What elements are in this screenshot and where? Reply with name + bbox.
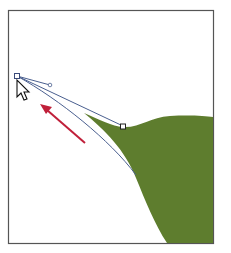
direction-handle-point[interactable]	[48, 83, 52, 87]
curve-anchor-point[interactable]	[121, 124, 126, 129]
illustration-canvas	[0, 0, 231, 253]
illustration-svg	[0, 0, 231, 253]
dragged-anchor-point[interactable]	[15, 74, 20, 79]
